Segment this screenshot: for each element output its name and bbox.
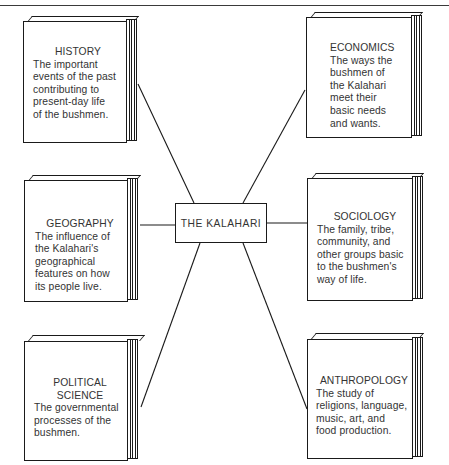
book-spine — [412, 176, 423, 299]
center-label: THE KALAHARI — [181, 218, 261, 229]
book-description: The governmental processes of the bushme… — [34, 402, 126, 440]
connector-economics — [243, 90, 305, 203]
book-description: The family, tribe, community, and other … — [317, 224, 413, 287]
book-title: ANTHROPOLOGY — [316, 375, 412, 388]
book-title: HISTORY — [33, 46, 123, 59]
connector-history — [138, 84, 194, 203]
center-node: THE KALAHARI — [175, 203, 267, 243]
book-description: The influence of the Kalahari's geograph… — [35, 231, 125, 294]
book-description: The important events of the past contrib… — [33, 59, 123, 122]
book-title: POLITICAL SCIENCE — [34, 377, 126, 402]
book-description: The study of religions, language, music,… — [316, 388, 412, 438]
connector-anthropology — [243, 243, 307, 409]
book-title: GEOGRAPHY — [35, 218, 125, 231]
book-title: ECONOMICS — [330, 42, 410, 55]
book-spine — [127, 178, 138, 300]
book-title: SOCIOLOGY — [317, 211, 413, 224]
book-spine — [411, 15, 422, 136]
book-spine — [126, 19, 137, 141]
connector-political-science — [141, 243, 200, 407]
book-spine — [412, 337, 423, 457]
book-spine — [127, 339, 138, 459]
book-description: The ways the bushmen of the Kalahari mee… — [330, 55, 410, 131]
